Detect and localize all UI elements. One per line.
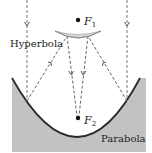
- focus-2-point: [76, 116, 80, 120]
- hyperbola-label: Hyperbola: [10, 38, 63, 49]
- focus-1-point: [76, 18, 80, 22]
- parabola-label: Parabola: [101, 133, 146, 144]
- reflector-diagram: F1 F2 Hyperbola Parabola: [0, 0, 152, 153]
